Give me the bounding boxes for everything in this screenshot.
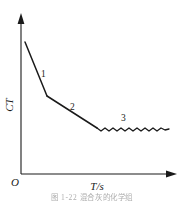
curve-segment-3: [97, 128, 169, 131]
figure-caption: 图 1-22 混合灰的化学组: [0, 193, 184, 201]
chart-svg: 1 2 3 CT T/s O: [0, 0, 184, 201]
y-axis-arrow-icon: [18, 13, 25, 24]
figure-container: 1 2 3 CT T/s O 图 1-22 混合灰的化学组: [0, 0, 184, 201]
x-axis-arrow-icon: [166, 171, 177, 178]
curve-segment-2: [47, 96, 97, 128]
segment-label-2: 2: [70, 102, 75, 112]
x-axis-label: T/s: [90, 180, 103, 192]
axes-group: [18, 13, 177, 177]
segment-label-1: 1: [41, 69, 46, 79]
segment-label-3: 3: [121, 113, 126, 123]
y-axis-label: CT: [3, 97, 15, 111]
curve-group: [25, 42, 169, 131]
origin-label: O: [11, 176, 19, 188]
